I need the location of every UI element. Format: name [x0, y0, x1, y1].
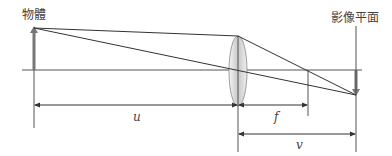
image-plane-label: 影像平面	[331, 8, 379, 25]
object-arrow	[33, 31, 36, 70]
object-label: 物體	[22, 5, 46, 22]
object-arrow-head	[30, 26, 38, 33]
u-label: u	[133, 110, 141, 124]
v-label: v	[296, 138, 303, 152]
f-label: f	[274, 110, 278, 124]
chief-ray	[34, 28, 356, 95]
